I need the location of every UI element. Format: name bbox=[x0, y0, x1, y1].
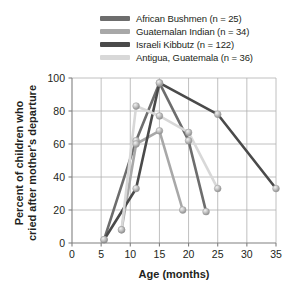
x-tick-label: 35 bbox=[266, 249, 286, 260]
x-tick-label: 20 bbox=[179, 249, 199, 260]
x-axis-title: Age (months) bbox=[72, 268, 276, 280]
chart-figure: African Bushmen (n = 25) Guatemalan Indi… bbox=[0, 0, 288, 294]
x-tick-label: 0 bbox=[62, 249, 82, 260]
x-tick-label: 25 bbox=[208, 249, 228, 260]
y-axis-title-line2: cried after mother's departure bbox=[26, 85, 38, 241]
x-tick-label: 30 bbox=[237, 249, 257, 260]
y-axis-title-line1: Percent of children who bbox=[13, 101, 25, 226]
x-tick-label: 5 bbox=[91, 249, 111, 260]
x-tick-labels: 05101520253035 bbox=[0, 0, 288, 294]
x-tick-label: 15 bbox=[149, 249, 169, 260]
y-axis-title: Percent of children who cried after moth… bbox=[13, 68, 39, 258]
x-tick-label: 10 bbox=[120, 249, 140, 260]
